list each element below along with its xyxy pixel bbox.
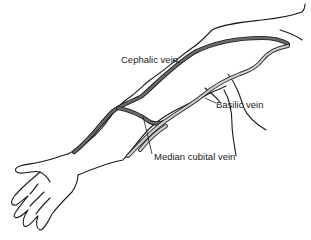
median-cubital-vein-label: Median cubital vein xyxy=(154,152,235,162)
arm-vein-diagram: Cephalic vein Basilic vein Median cubita… xyxy=(0,0,311,240)
finger-line-1 xyxy=(30,184,38,194)
cephalic-vein xyxy=(74,38,288,152)
thumb-crease xyxy=(40,172,50,182)
cephalic-vein-edge xyxy=(74,38,288,152)
finger-line-2 xyxy=(30,192,44,206)
shoulder-line xyxy=(280,30,302,40)
hand-outline xyxy=(12,154,78,230)
cephalic-vein-label: Cephalic vein xyxy=(121,55,178,65)
basilic-leader-line xyxy=(205,98,216,103)
finger-line-3 xyxy=(36,198,50,214)
basilic-vein-label: Basilic vein xyxy=(216,100,264,110)
arm-outline-upper xyxy=(68,4,305,154)
arm-illustration xyxy=(0,0,311,240)
